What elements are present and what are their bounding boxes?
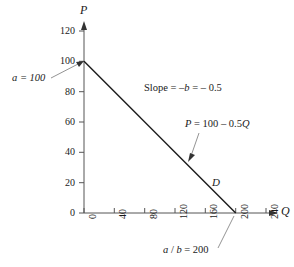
y-axis — [81, 21, 87, 213]
x-axis-label: Q — [281, 205, 290, 217]
y-tick-label-20: 20 — [49, 178, 75, 188]
slope-annotation-suffix: = – 0.5 — [190, 82, 222, 93]
y-tick-label-100: 100 — [49, 56, 75, 66]
demand-curve-figure: P Q 0 20 40 60 80 100 120 0 40 80 120 16… — [0, 0, 294, 267]
x-intercept-annotation: a / b = 200 — [163, 245, 209, 256]
x-tick-label-40: 40 — [118, 209, 128, 219]
equation-annotation-body: = 100 – 0.5 — [191, 118, 242, 129]
x-intercept-annotation-value: = 200 — [182, 244, 209, 255]
x-tick-label-200: 200 — [240, 204, 250, 219]
slope-annotation-prefix: Slope = – — [144, 82, 184, 93]
equation-annotation-q: Q — [242, 118, 250, 129]
x-tick-label-80: 80 — [149, 209, 159, 219]
y-tick-label-40: 40 — [49, 147, 75, 157]
x-tick-label-240: 240 — [270, 204, 280, 219]
y-tick-label-120: 120 — [49, 26, 75, 36]
chart-canvas — [0, 0, 294, 267]
xintercept-leader — [218, 216, 234, 248]
y-tick-label-80: 80 — [49, 87, 75, 97]
x-tick-label-120: 120 — [179, 204, 189, 219]
equation-leader — [188, 133, 199, 162]
y-axis-ticks — [79, 31, 84, 213]
y-intercept-annotation: a = 100 — [12, 73, 45, 84]
y-axis-arrowhead — [81, 21, 87, 30]
y-intercept-annotation-text: a = 100 — [12, 72, 45, 83]
equation-annotation: P = 100 – 0.5Q — [185, 119, 250, 130]
x-tick-label-0: 0 — [88, 214, 98, 219]
x-tick-label-160: 160 — [209, 204, 219, 219]
y-tick-label-60: 60 — [49, 117, 75, 127]
y-axis-label: P — [80, 4, 87, 16]
slope-annotation: Slope = –b = – 0.5 — [144, 83, 222, 94]
y-tick-label-0: 0 — [49, 208, 75, 218]
demand-curve-label: D — [212, 177, 220, 188]
